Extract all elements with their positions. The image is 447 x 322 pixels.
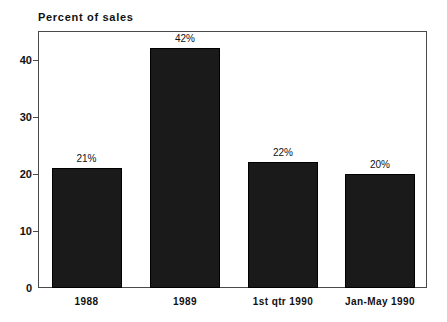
x-axis-tick-label: Jan-May 1990 <box>345 296 415 307</box>
bar-chart-figure: Percent of sales 010203040 198819891st q… <box>0 0 447 322</box>
y-axis-tick-mark <box>33 60 39 61</box>
x-axis-tick-label: 1st qtr 1990 <box>253 296 313 307</box>
x-axis-tick-label: 1988 <box>75 296 99 307</box>
chart-title: Percent of sales <box>38 11 134 23</box>
bar-value-label: 42% <box>175 33 195 44</box>
y-axis-tick-label: 20 <box>4 168 32 180</box>
y-axis-tick-label: 30 <box>4 111 32 123</box>
y-axis-tick-mark <box>33 231 39 232</box>
y-axis-tick-mark <box>33 174 39 175</box>
bar-value-label: 20% <box>370 159 390 170</box>
bar <box>248 162 318 288</box>
bar <box>345 174 415 288</box>
bar <box>150 48 220 288</box>
x-axis-tick-label: 1989 <box>173 296 197 307</box>
y-axis-tick-label: 0 <box>4 282 32 294</box>
bar-value-label: 21% <box>76 153 96 164</box>
bar <box>52 168 122 288</box>
y-axis-tick-mark <box>33 117 39 118</box>
bar-value-label: 22% <box>273 147 293 158</box>
y-axis-tick-label: 40 <box>4 54 32 66</box>
y-axis-tick-label: 10 <box>4 225 32 237</box>
